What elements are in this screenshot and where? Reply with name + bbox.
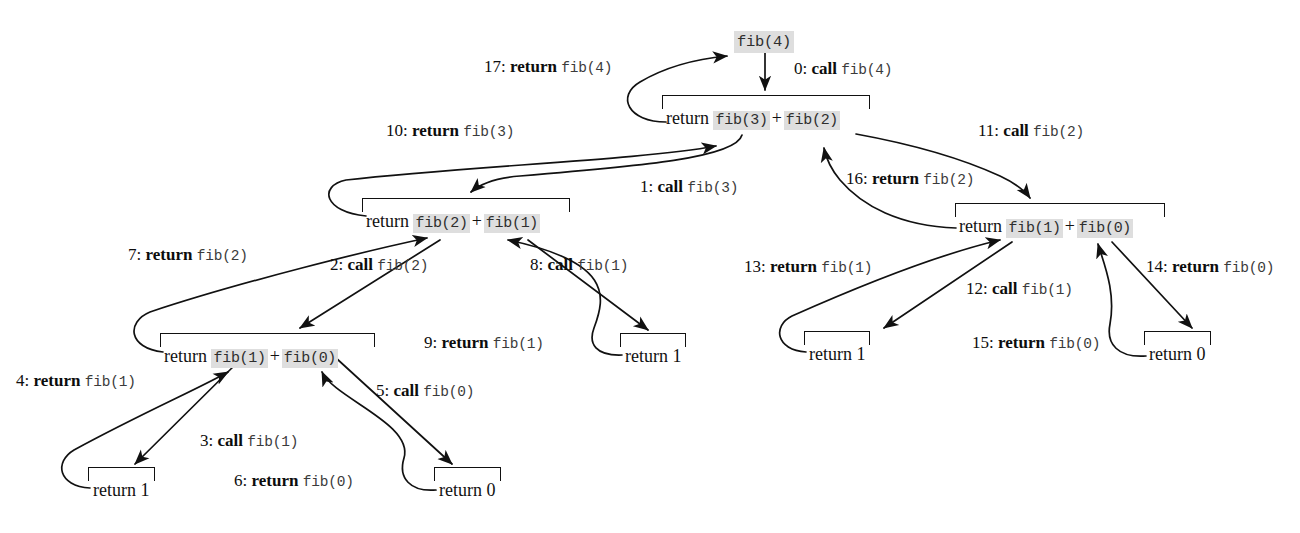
call-token-right[interactable]: fib(0) [1077,219,1133,238]
edge-arrow-5 [336,358,452,464]
arrow-layer [0,0,1300,533]
plus-operator: + [268,346,282,366]
call-token-left[interactable]: fib(2) [413,214,469,233]
edge-label-11: 11: call fib(2) [978,122,1084,140]
plus-operator: + [1063,216,1077,236]
call-token-right[interactable]: fib(1) [484,214,540,233]
edge-label-0: 0: call fib(4) [794,60,892,78]
frame-fib2-right-body: return fib(1)+fib(0) [955,215,1133,240]
edge-label-12: 12: call fib(1) [966,280,1073,298]
call-token-right[interactable]: fib(0) [282,349,338,368]
edge-label-5: 5: call fib(0) [376,382,474,400]
edge-label-15: 15: return fib(0) [972,334,1100,352]
edge-arrow-8 [528,240,648,330]
edge-label-1: 1: call fib(3) [640,178,738,196]
return-keyword: return [366,211,409,231]
call-token-left[interactable]: fib(1) [211,349,267,368]
leaf-text: return 0 [434,479,495,501]
edge-label-13: 13: return fib(1) [744,258,872,276]
return-keyword: return [666,108,709,128]
edge-label-17: 17: return fib(4) [484,58,612,76]
edge-arrow-14 [1112,242,1192,328]
plus-operator: + [770,108,784,128]
leaf-text: return 1 [88,479,149,501]
plus-operator: + [470,211,484,231]
frame-fib3-body: return fib(2)+fib(1) [362,210,540,235]
root-node-fib4[interactable]: fib(4) [734,31,794,53]
return-keyword: return [959,216,1002,236]
frame-fib2-left-body: return fib(1)+fib(0) [160,345,338,370]
leaf-text: return 0 [1144,343,1205,365]
edge-label-6: 6: return fib(0) [234,472,354,490]
edge-label-8: 8: call fib(1) [530,256,628,274]
edge-label-10: 10: return fib(3) [386,122,514,140]
edge-label-9: 9: return fib(1) [424,334,544,352]
edge-arrow-11 [856,134,1030,198]
edge-label-4: 4: return fib(1) [16,372,136,390]
edge-arrow-15 [1098,244,1146,356]
call-token-left[interactable]: fib(3) [713,111,769,130]
recursion-tree-diagram: fib(4) return fib(3)+fib(2) return fib(2… [0,0,1300,533]
edge-arrow-2 [300,240,440,328]
edge-label-14: 14: return fib(0) [1146,258,1274,276]
edge-label-7: 7: return fib(2) [128,246,248,264]
edge-label-16: 16: return fib(2) [846,170,974,188]
call-token-left[interactable]: fib(1) [1006,219,1062,238]
frame-fib4-body: return fib(3)+fib(2) [662,107,840,132]
return-keyword: return [164,346,207,366]
edge-arrow-16 [824,148,956,228]
leaf-text: return 1 [804,343,865,365]
edge-label-3: 3: call fib(1) [200,432,298,450]
edge-label-2: 2: call fib(2) [330,256,428,274]
call-token-right[interactable]: fib(2) [784,111,840,130]
leaf-text: return 1 [620,345,681,367]
